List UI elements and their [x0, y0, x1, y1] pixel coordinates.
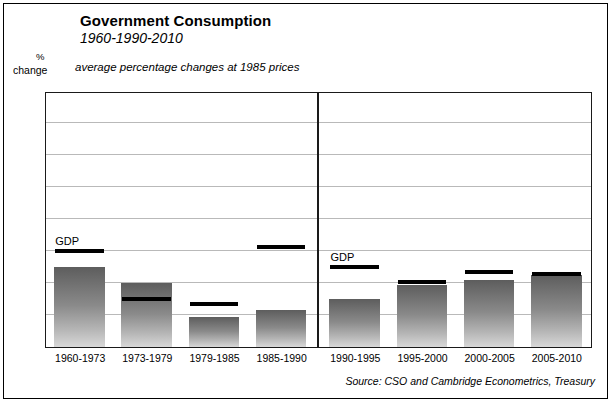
x-axis-tick-label: 1990-1995: [322, 352, 389, 364]
gdp-marker: [257, 245, 306, 249]
gdp-marker: [330, 265, 379, 269]
gdp-marker: [55, 249, 104, 253]
y-axis-unit-label: %: [36, 51, 44, 62]
bar: [189, 317, 240, 347]
gdp-marker: [465, 270, 514, 274]
page-subtitle: 1960-1990-2010: [80, 30, 183, 46]
gdp-marker: [122, 297, 171, 301]
bar: [397, 285, 448, 347]
chart-frame: Government Consumption 1960-1990-2010 av…: [3, 3, 608, 399]
plot-inner: GDPGDP: [46, 93, 591, 347]
bar: [54, 267, 105, 347]
bar: [121, 283, 172, 347]
x-axis-tick-label: 1979-1985: [181, 352, 248, 364]
bar: [464, 280, 515, 347]
x-axis-tick-label: 2000-2005: [456, 352, 523, 364]
period-divider: [317, 93, 319, 347]
gdp-series-label: GDP: [55, 235, 79, 247]
x-axis-tick-label: 2005-2010: [523, 352, 590, 364]
bar: [329, 299, 380, 347]
x-axis-tick-label: 1960-1973: [47, 352, 114, 364]
x-axis-tick-label: 1973-1979: [114, 352, 181, 364]
plot-area: GDPGDP: [45, 92, 592, 348]
page-title: Government Consumption: [80, 12, 271, 29]
chart-note: average percentage changes at 1985 price…: [75, 61, 299, 73]
gdp-marker: [532, 272, 581, 276]
gdp-marker: [190, 302, 239, 306]
gdp-marker: [398, 280, 447, 284]
source-note: Source: CSO and Cambridge Econometrics, …: [345, 375, 595, 387]
y-axis-title: change: [13, 64, 47, 76]
bar: [531, 275, 582, 347]
gdp-series-label: GDP: [330, 251, 354, 263]
x-axis-tick-label: 1995-2000: [389, 352, 456, 364]
bar: [256, 310, 307, 347]
x-axis-tick-label: 1985-1990: [248, 352, 315, 364]
